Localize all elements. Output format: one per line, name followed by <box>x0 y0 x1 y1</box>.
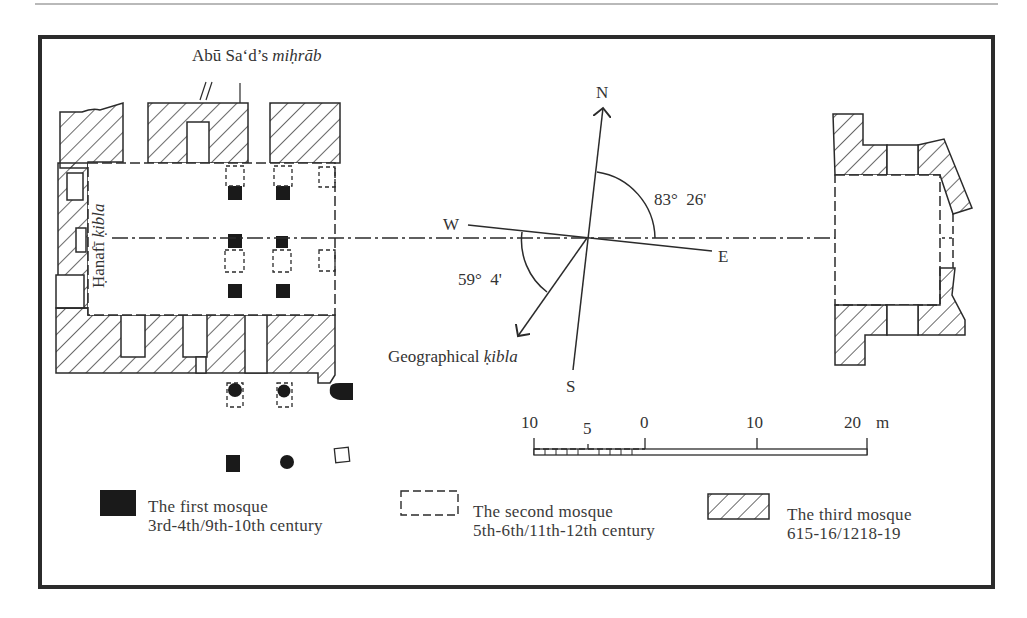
scale-tick-5: 5 <box>583 419 592 438</box>
legend-period: 3rd-4th/9th-10th century <box>148 516 323 535</box>
scale-tick-20: 20 <box>844 413 861 432</box>
open-pillar <box>334 447 349 462</box>
legend-item-first-mosque: The first mosque 3rd-4th/9th-10th centur… <box>148 497 323 535</box>
left-niche-1 <box>67 173 83 200</box>
compass-south-label: S <box>566 377 575 396</box>
legend-title: The first mosque <box>148 497 323 516</box>
right-mosque-plan <box>833 114 972 365</box>
bottom-opening-2 <box>183 315 207 357</box>
hatched-wall-right-bottom <box>835 305 887 365</box>
legend-symbol-dashed <box>401 491 458 515</box>
legend-item-second-mosque: The second mosque 5th-6th/11th-12th cent… <box>473 502 655 540</box>
hatched-wall-top-left <box>60 103 123 168</box>
legend-title: The second mosque <box>473 502 655 521</box>
bottom-gap <box>196 357 206 373</box>
compass <box>468 108 712 370</box>
right-opening-top <box>887 145 918 175</box>
scale-unit: m <box>876 413 889 432</box>
compass-west-label: W <box>443 215 460 234</box>
mihrab-label: Abū Sa‘d’s miḥrāb <box>192 46 321 65</box>
angle-north-east-label: 83° 26' <box>654 190 706 209</box>
left-niche-2 <box>76 228 86 252</box>
legend-title: The third mosque <box>787 505 912 524</box>
niche-top <box>187 122 209 163</box>
legend-symbol-hatched <box>708 494 769 519</box>
bottom-opening-3 <box>245 315 267 373</box>
hanafi-kibla-label: Ḥanafī ḳibla <box>89 203 108 288</box>
left-niche-3 <box>56 275 84 308</box>
legend-item-third-mosque: The third mosque 615-16/1218-19 <box>787 505 912 543</box>
geographical-kibla-arrow <box>518 238 587 336</box>
angle-west-kibla-label: 59° 4' <box>458 270 502 289</box>
compass-north-label: N <box>596 83 608 102</box>
legend-symbol-solid <box>100 490 136 516</box>
geographical-kibla-label: Geographical ḳibla <box>388 347 518 366</box>
hatched-wall-top-right <box>270 103 340 163</box>
compass-east-label: E <box>718 247 728 266</box>
scale-tick-10-left: 10 <box>521 413 538 432</box>
scale-bar <box>534 438 867 455</box>
right-opening-bottom <box>887 305 918 335</box>
hatched-wall-right-top <box>833 114 887 175</box>
scale-tick-0: 0 <box>640 413 649 432</box>
scale-tick-10-right: 10 <box>746 413 763 432</box>
right-inner-hall <box>835 175 940 305</box>
legend-period: 615-16/1218-19 <box>787 524 912 543</box>
angle-arc-west-kibla <box>521 232 547 292</box>
angle-arc-north-east <box>597 172 655 238</box>
legend-period: 5th-6th/11th-12th century <box>473 521 655 540</box>
mihrab-marker <box>200 82 212 100</box>
courtyard <box>88 163 335 315</box>
bottom-opening-1 <box>121 315 145 357</box>
